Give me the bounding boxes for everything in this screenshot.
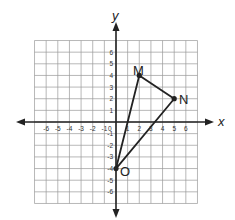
- coordinate-plane: x y -6-5-4-3-2-10123456654321-1-2-3-4-5-…: [0, 0, 235, 220]
- y-tick-label: 3: [109, 84, 113, 91]
- x-tick-label: 4: [161, 125, 165, 132]
- y-axis-arrow-up-icon: [113, 22, 120, 31]
- y-tick-label: -2: [107, 142, 113, 149]
- y-tick-label: -1: [107, 130, 113, 137]
- y-tick-label: 2: [109, 95, 113, 102]
- y-tick-label: 6: [109, 49, 113, 56]
- y-tick-label: -6: [107, 188, 113, 195]
- y-tick-label: -3: [107, 153, 113, 160]
- x-tick-label: -3: [78, 125, 84, 132]
- x-axis-arrow-left-icon: [16, 119, 25, 126]
- x-tick-label: 2: [137, 125, 141, 132]
- y-tick-label: 4: [109, 72, 113, 79]
- y-axis-arrow-down-icon: [113, 209, 120, 218]
- axes: x y: [16, 8, 225, 218]
- vertex-n-dot: [172, 96, 177, 101]
- y-axis-label: y: [111, 8, 120, 23]
- point-label-o: O: [120, 164, 130, 179]
- x-tick-label: -6: [43, 125, 49, 132]
- y-tick-label: -5: [107, 177, 113, 184]
- point-label-m: M: [133, 63, 144, 78]
- x-tick-label: 5: [172, 125, 176, 132]
- x-tick-label: 6: [184, 125, 188, 132]
- y-tick-label: 1: [109, 107, 113, 114]
- y-tick-label: -4: [107, 165, 113, 172]
- x-tick-label: -5: [55, 125, 61, 132]
- point-labels: M N O: [120, 63, 188, 179]
- y-tick-label: 5: [109, 60, 113, 67]
- point-label-n: N: [179, 92, 188, 107]
- x-axis-label: x: [217, 114, 225, 129]
- vertex-o-dot: [113, 166, 118, 171]
- x-tick-label: -2: [90, 125, 96, 132]
- x-axis-arrow-right-icon: [205, 119, 214, 126]
- x-tick-label: -4: [67, 125, 73, 132]
